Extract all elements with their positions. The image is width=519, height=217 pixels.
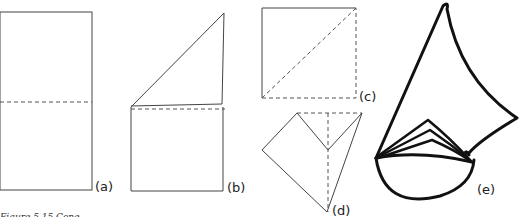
panel-a-label: (a) [95,179,113,194]
figure-caption: Figure 5.15 Cone [0,212,80,217]
panel-a: (a) [0,12,113,194]
panel-e-label: (e) [477,182,495,197]
panel-d-folded-shape [262,113,362,212]
panel-c-diagonal-fold [262,8,356,98]
panel-b-lower-rectangle [131,107,223,191]
panel-e: (e) [376,4,517,199]
cone-folding-diagram: (a) (b) (c) (d) (e) Figure 5.15 Cone [0,0,519,217]
panel-c: (c) [262,8,376,104]
panel-d: (d) [262,113,362,217]
panel-b-triangle-flap [131,13,224,107]
panel-d-label: (d) [332,203,350,217]
panel-c-label: (c) [359,89,376,104]
panel-b: (b) [131,13,245,195]
panel-e-cone-base [376,158,474,199]
panel-b-label: (b) [227,180,245,195]
panel-a-rectangle [0,12,92,190]
panel-e-base-rim [376,155,472,162]
